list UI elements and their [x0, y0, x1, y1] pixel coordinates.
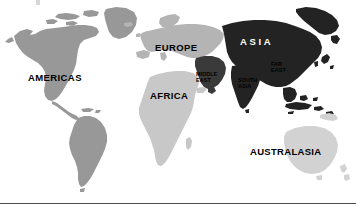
- world-region-map: AMERICAS EUROPE AFRICA ASIA AUSTRALASIA …: [0, 0, 356, 215]
- bottom-divider-rule: [0, 203, 356, 204]
- region-shape-africa: [139, 71, 207, 166]
- world-map-graphic: [0, 0, 356, 215]
- top-edge-artifact: [36, 0, 40, 5]
- region-shape-south-asia: [231, 65, 260, 113]
- region-shape-europe: [124, 14, 224, 61]
- region-shape-australasia: [284, 113, 350, 181]
- region-shape-americas: [5, 7, 137, 192]
